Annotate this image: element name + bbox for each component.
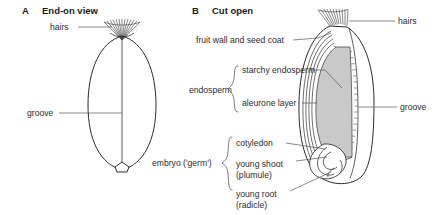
label-groove-b: groove: [400, 102, 426, 112]
label-embryo-group: embryo ('germ'): [152, 158, 212, 168]
cereal-grain-figure: A End-on view: [0, 0, 448, 215]
label-hairs-a: hairs: [50, 22, 69, 32]
brace-embryo: [222, 137, 232, 190]
label-cotyledon: cotyledon: [236, 138, 273, 148]
label-endosperm-group: endosperm: [189, 85, 232, 95]
label-plumule: (plumule): [236, 170, 272, 180]
label-radicle: (radicle): [236, 200, 267, 210]
leader-young-root: [290, 172, 331, 191]
label-aleurone-layer: aleurone layer: [242, 98, 297, 108]
panel-a: A End-on view: [22, 5, 156, 172]
label-young-root: young root: [236, 189, 277, 199]
panel-b: B Cut open: [152, 5, 426, 210]
panel-b-letter: B: [192, 5, 199, 16]
label-young-shoot: young shoot: [236, 159, 283, 169]
label-starchy-endosperm: starchy endosperm: [242, 65, 315, 75]
label-groove-a: groove: [27, 108, 53, 118]
label-fruit-wall: fruit wall and seed coat: [196, 35, 285, 45]
hairs-tuft-cut-open: [318, 9, 348, 26]
panel-a-title: End-on view: [42, 5, 99, 16]
panel-b-title: Cut open: [212, 5, 253, 16]
panel-a-letter: A: [22, 5, 29, 16]
label-hairs-b: hairs: [398, 16, 417, 26]
